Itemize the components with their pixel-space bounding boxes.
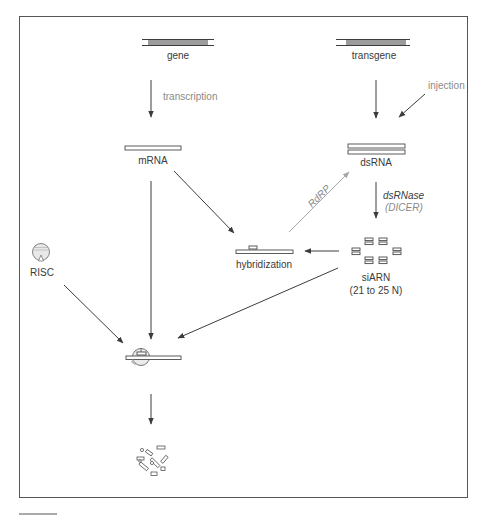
- mrna-strand-icon: [125, 146, 181, 150]
- dsrnase-label: dsRNase: [383, 190, 425, 201]
- mrna-label: mRNA: [138, 155, 168, 166]
- mrna-to-hybridization-arrow: [174, 171, 234, 233]
- siarn-to-complex-arrow: [178, 268, 338, 338]
- transgene-label: transgene: [352, 50, 397, 61]
- injection-arrow: [399, 94, 425, 117]
- gene-dna-icon: [142, 40, 214, 46]
- dicer-label: (DICER): [385, 202, 423, 213]
- diagram-frame: [20, 17, 468, 498]
- transcription-label: transcription: [163, 91, 217, 102]
- siarn-duplexes-icon: [352, 238, 401, 264]
- siarn-size-label: (21 to 25 N): [350, 285, 403, 296]
- risc-to-complex-arrow: [64, 285, 123, 343]
- risc-complex-icon: [33, 244, 50, 262]
- gene-label: gene: [167, 50, 190, 61]
- risc-label: RISC: [30, 267, 54, 278]
- risc-mrna-cleavage-complex-icon: [126, 348, 181, 366]
- dsrna-strand-bottom-icon: [348, 150, 405, 154]
- siarn-label: siARN: [362, 272, 390, 283]
- degraded-rna-fragments-icon: [137, 446, 168, 476]
- transgene-dna-icon: [336, 40, 410, 46]
- dsrna-strand-top-icon: [348, 144, 405, 148]
- hybridization-label: hybridization: [236, 259, 292, 270]
- rnai-diagram: gene transgene transcription injection m…: [0, 0, 483, 517]
- hybridization-duplex-icon: [236, 246, 293, 254]
- rdrp-label: RdRP: [306, 183, 333, 210]
- injection-label: injection: [428, 80, 465, 91]
- dsrna-label: dsRNA: [360, 157, 392, 168]
